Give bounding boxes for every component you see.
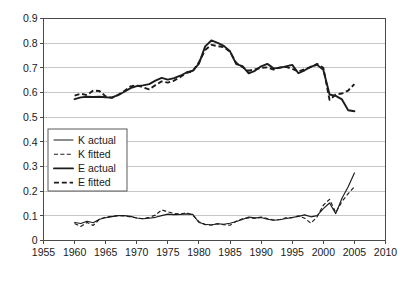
chart-legend: K actualK fittedE actualE fitted [48, 129, 127, 191]
legend-label-e-actual: E actual [78, 162, 116, 174]
y-tick-label: 0.6 [23, 86, 38, 98]
x-tick-label: 2010 [374, 246, 398, 258]
legend-label-e-fitted: E fitted [78, 176, 111, 188]
legend-label-k-fitted: K fitted [78, 148, 111, 160]
x-tick-label: 1955 [32, 246, 56, 258]
y-tick-label: 0.3 [23, 160, 38, 172]
y-tick-label: 0.5 [23, 111, 38, 123]
x-tick-label: 1970 [125, 246, 149, 258]
x-tick-label: 2000 [312, 246, 336, 258]
x-tick-label: 1960 [63, 246, 87, 258]
x-tick-label: 2005 [343, 246, 367, 258]
y-tick-label: 0.2 [23, 185, 38, 197]
x-tick-label: 1980 [187, 246, 211, 258]
y-tick-label: 0.4 [23, 136, 38, 148]
y-tick-label: 0.7 [23, 62, 38, 74]
y-tick-label: 0.1 [23, 210, 38, 222]
x-tick-label: 1985 [218, 246, 242, 258]
legend-label-k-actual: K actual [78, 134, 116, 146]
x-tick-label: 1995 [281, 246, 305, 258]
x-tick-label: 1990 [249, 246, 273, 258]
line-chart: 00.10.20.30.40.50.60.70.80.9 19551960196… [0, 0, 408, 281]
y-tick-label: 0.9 [23, 12, 38, 24]
y-tick-label: 0.8 [23, 37, 38, 49]
chart-container: 00.10.20.30.40.50.60.70.80.9 19551960196… [0, 0, 408, 281]
y-tick-label: 0 [32, 234, 38, 246]
x-tick-label: 1965 [94, 246, 118, 258]
x-tick-label: 1975 [156, 246, 180, 258]
